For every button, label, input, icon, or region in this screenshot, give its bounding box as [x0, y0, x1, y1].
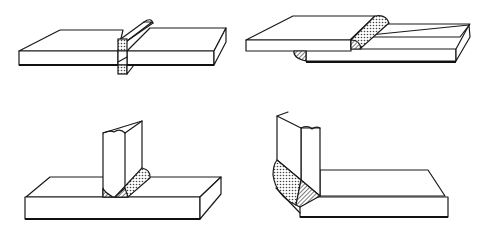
butt-joint-drawing — [19, 20, 226, 74]
tee-joint-drawing — [25, 121, 221, 219]
corner-joint-drawing — [273, 112, 448, 217]
lap-joint-drawing — [246, 16, 470, 62]
weld-joints-figure — [0, 0, 483, 232]
